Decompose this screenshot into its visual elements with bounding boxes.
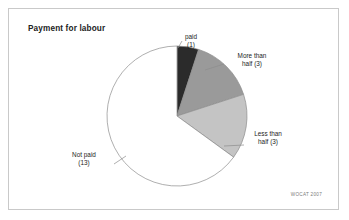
pie-label-more-than-half: More than half (3): [223, 52, 281, 69]
pie-label-less-than-half-name: Less than: [254, 130, 282, 137]
pie-label-more-than-half-name: More than: [238, 52, 267, 59]
pie-label-paid-name: paid: [185, 33, 197, 40]
pie-label-paid: paid (1): [174, 33, 208, 50]
chart-screenshot: Payment for labour WOCAT 2007 paid (1) M…: [0, 0, 349, 220]
pie-label-paid-count: (1): [174, 41, 208, 49]
pie-label-less-than-half: Less than half (3): [243, 130, 293, 147]
pie-label-less-than-half-count: half (3): [243, 138, 293, 146]
pie-label-not-paid-name: Not paid: [72, 151, 96, 158]
pie-label-more-than-half-count: half (3): [223, 60, 281, 68]
pie-label-not-paid: Not paid (13): [57, 151, 111, 168]
pie-label-not-paid-count: (13): [57, 159, 111, 167]
